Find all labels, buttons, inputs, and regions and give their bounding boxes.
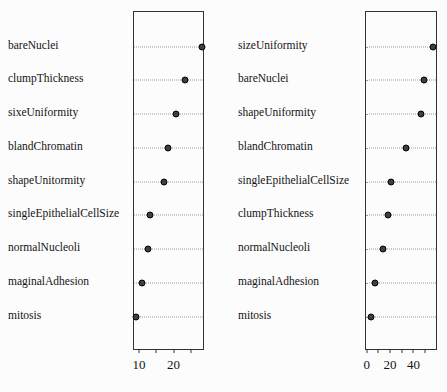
axis-tick: [366, 349, 367, 353]
row-dotted-line: [134, 181, 203, 182]
row-dotted-line: [134, 215, 203, 216]
category-label: blandChromatin: [8, 141, 83, 153]
variable-importance-dotchart: bareNucleiclumpThicknesssixeUniformitybl…: [0, 0, 447, 392]
axis-tick: [138, 349, 139, 353]
category-label: shapeUnitormity: [8, 175, 85, 187]
axis-tick: [390, 349, 391, 353]
row-dotted-line: [366, 181, 436, 182]
row-dotted-line: [134, 46, 203, 47]
category-label: blandChromatin: [238, 141, 313, 153]
axis-tick-label: 20: [167, 358, 180, 371]
row-dotted-line: [366, 147, 436, 148]
category-label: singleEpithelialCellSize: [8, 209, 119, 221]
dot-marker: [367, 313, 374, 320]
axis-tick: [156, 349, 157, 353]
axis-tick: [401, 349, 402, 353]
row-dotted-line: [134, 80, 203, 81]
dot-marker: [379, 246, 386, 253]
axis-tick: [173, 349, 174, 353]
category-label: bareNuclei: [8, 40, 58, 52]
axis-tick: [190, 349, 191, 353]
dot-marker: [199, 43, 206, 50]
dot-marker: [147, 212, 154, 219]
category-label: mitosis: [8, 310, 41, 322]
x-axis-right: 02040: [365, 349, 437, 379]
category-label: normalNucleoli: [8, 242, 80, 254]
dot-marker: [138, 279, 145, 286]
dot-marker: [388, 178, 395, 185]
row-dotted-line: [366, 46, 436, 47]
category-label: singleEpithelialCellSize: [238, 175, 349, 187]
category-label: sixeUniformity: [8, 107, 78, 119]
axis-tick-label: 10: [132, 358, 145, 371]
dot-marker: [145, 246, 152, 253]
axis-tick-label: 40: [407, 358, 420, 371]
row-dotted-line: [366, 249, 436, 250]
row-dotted-line: [366, 114, 436, 115]
plot-box-right: [365, 11, 437, 350]
category-label: sizeUniformity: [238, 40, 308, 52]
category-label: clumpThickness: [238, 209, 313, 221]
axis-tick: [378, 349, 379, 353]
category-label: shapeUniformity: [238, 107, 316, 119]
x-axis-left: 1020: [133, 349, 204, 379]
dot-marker: [181, 77, 188, 84]
dot-marker: [418, 111, 425, 118]
category-label: mitosis: [238, 310, 271, 322]
axis-tick: [425, 349, 426, 353]
dot-marker: [164, 144, 171, 151]
category-label: maginalAdhesion: [8, 276, 89, 288]
dot-marker: [173, 111, 180, 118]
row-dotted-line: [134, 114, 203, 115]
row-dotted-line: [366, 215, 436, 216]
row-dotted-line: [134, 316, 203, 317]
category-label: clumpThickness: [8, 74, 83, 86]
category-label: normalNucleoli: [238, 242, 310, 254]
dot-panel-right: sizeUniformitybareNucleishapeUniformityb…: [230, 0, 447, 392]
dot-panel-left: bareNucleiclumpThicknesssixeUniformitybl…: [0, 0, 224, 392]
axis-tick: [413, 349, 414, 353]
category-label: bareNuclei: [238, 74, 288, 86]
plot-box-left: [133, 11, 204, 350]
category-labels-left: bareNucleiclumpThicknesssixeUniformitybl…: [8, 11, 132, 348]
dot-marker: [384, 212, 391, 219]
axis-tick-label: 0: [364, 358, 371, 371]
dot-marker: [133, 313, 140, 320]
dot-marker: [371, 279, 378, 286]
row-dotted-line: [366, 316, 436, 317]
axis-tick-label: 20: [384, 358, 397, 371]
dot-marker: [430, 43, 437, 50]
category-labels-right: sizeUniformitybareNucleishapeUniformityb…: [238, 11, 362, 348]
dot-marker: [403, 144, 410, 151]
dot-marker: [160, 178, 167, 185]
category-label: maginalAdhesion: [238, 276, 319, 288]
dot-marker: [420, 77, 427, 84]
